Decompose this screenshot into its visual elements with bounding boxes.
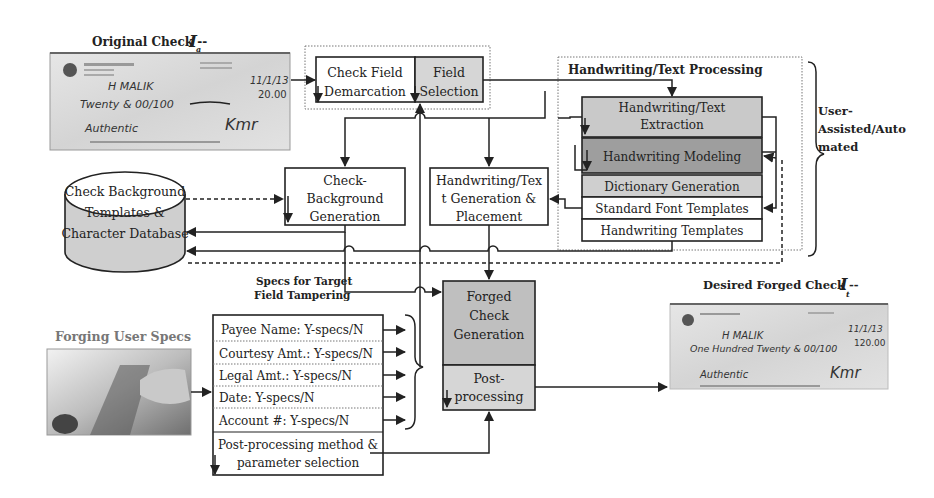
user-assisted-label-2: Assisted/Auto — [817, 122, 906, 136]
desired-forged-check: Desired Forged Check -- I t 11/1/13 120.… — [670, 275, 888, 389]
svg-text:Demarcation: Demarcation — [324, 84, 406, 99]
user-assisted-brace — [808, 62, 824, 256]
hw-generation-placement-box[interactable]: Handwriting/Tex t Generation & Placement — [430, 168, 548, 225]
hw-processing-title: Handwriting/Text Processing — [568, 63, 763, 77]
desired-check-title: Desired Forged Check -- — [703, 278, 859, 292]
desired-check-memo: Authentic — [699, 369, 749, 380]
svg-text:Dictionary Generation: Dictionary Generation — [604, 180, 740, 194]
post-method-label-2[interactable]: parameter selection — [237, 456, 359, 470]
spec-fields-table: Payee Name: Y-specs/N Courtesy Amt.: Y-s… — [213, 315, 383, 475]
user-assisted-label-3: mated — [818, 140, 858, 154]
svg-text:Extraction: Extraction — [640, 118, 704, 132]
spec-field-legal[interactable]: Legal Amt.: Y-specs/N — [219, 369, 352, 383]
spec-field-arrows — [383, 315, 423, 429]
check-background-database[interactable]: Check Background Templates & Character D… — [61, 172, 188, 272]
original-check-date: 11/1/13 — [250, 75, 289, 86]
dictionary-generation-box[interactable]: Dictionary Generation — [582, 175, 762, 197]
spec-field-courtesy[interactable]: Courtesy Amt.: Y-specs/N — [219, 347, 373, 361]
svg-text:Handwriting/Text: Handwriting/Text — [619, 101, 726, 115]
check-field-demarcation-box[interactable]: Check Field Demarcation — [316, 57, 415, 102]
check-logo-icon — [63, 63, 77, 77]
svg-text:Standard Font Templates: Standard Font Templates — [595, 202, 749, 216]
desired-check-payee: H MALIK — [722, 330, 765, 341]
original-check: Original Check -- I a 11/1/13 20.00 H MA… — [50, 31, 290, 150]
keyboard-image — [47, 349, 191, 435]
original-check-amount-words: Twenty & 00/100 — [80, 98, 174, 111]
forged-check-generation-box[interactable]: Forged Check Generation — [443, 281, 535, 365]
specs-target-label-2: Field Tampering — [254, 289, 351, 301]
svg-text:Background: Background — [307, 191, 384, 206]
hw-text-extraction-box[interactable]: Handwriting/Text Extraction — [582, 97, 762, 137]
user-assisted-label-1: User- — [818, 104, 853, 118]
desired-check-signature: Kmr — [830, 364, 861, 382]
original-check-payee: H MALIK — [108, 80, 154, 93]
svg-text:Post-: Post- — [473, 371, 504, 386]
svg-text:Forged: Forged — [467, 289, 512, 304]
svg-text:Check-: Check- — [323, 173, 367, 188]
standard-font-templates-box[interactable]: Standard Font Templates — [582, 197, 762, 219]
hw-modeling-box[interactable]: Handwriting Modeling — [582, 138, 762, 173]
svg-text:Check Background: Check Background — [65, 184, 185, 199]
svg-text:Check: Check — [469, 308, 509, 323]
svg-text:Templates &: Templates & — [85, 205, 165, 220]
spec-field-account[interactable]: Account #: Y-specs/N — [218, 414, 349, 428]
original-check-memo: Authentic — [84, 122, 138, 135]
forging-user-specs-label: Forging User Specs — [55, 329, 191, 344]
check-background-generation-box[interactable]: Check- Background Generation — [285, 168, 405, 225]
forgery-pipeline-diagram: Original Check -- I a 11/1/13 20.00 H MA… — [0, 0, 934, 498]
post-method-label-1[interactable]: Post-processing method & — [218, 438, 378, 452]
handwriting-templates-box[interactable]: Handwriting Templates — [582, 219, 762, 241]
desired-check-logo-icon — [682, 314, 694, 326]
svg-text:Character Database: Character Database — [61, 226, 188, 241]
desired-check-date: 11/1/13 — [848, 324, 883, 334]
svg-text:Generation: Generation — [310, 209, 381, 224]
post-processing-box[interactable]: Post- processing — [443, 365, 535, 410]
svg-text:t Generation &: t Generation & — [442, 191, 537, 206]
spec-field-payee[interactable]: Payee Name: Y-specs/N — [221, 323, 364, 337]
specs-target-label-1: Specs for Target — [256, 275, 352, 287]
svg-text:processing: processing — [455, 389, 524, 404]
desired-check-subscript: t — [846, 289, 850, 299]
svg-text:Placement: Placement — [456, 209, 523, 224]
spec-field-date[interactable]: Date: Y-specs/N — [219, 391, 315, 405]
original-check-signature: Kmr — [225, 115, 259, 134]
svg-text:Field: Field — [433, 65, 465, 80]
svg-text:Check Field: Check Field — [327, 65, 403, 80]
svg-text:Selection: Selection — [420, 84, 479, 99]
svg-text:Generation: Generation — [454, 327, 525, 342]
field-selection-box[interactable]: Field Selection — [415, 57, 483, 102]
original-check-amount: 20.00 — [258, 89, 287, 100]
svg-text:Handwriting/Tex: Handwriting/Tex — [436, 173, 542, 188]
svg-text:Handwriting Templates: Handwriting Templates — [600, 224, 743, 238]
svg-text:Handwriting Modeling: Handwriting Modeling — [603, 150, 741, 164]
desired-check-amount: 120.00 — [854, 338, 886, 348]
desired-check-amount-words: One Hundred Twenty & 00/100 — [690, 343, 837, 354]
